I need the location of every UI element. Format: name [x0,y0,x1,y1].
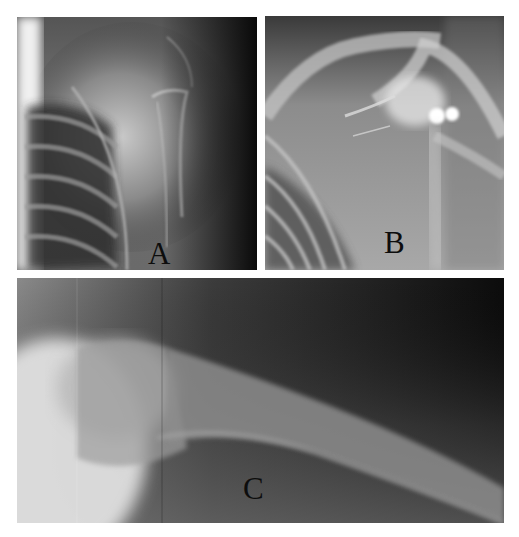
xray-panel-b: B [265,16,504,270]
xray-panel-c: C [17,278,504,523]
panel-label-b: B [384,227,405,258]
panel-label-c: C [243,473,264,504]
xray-panel-a: A [17,17,257,270]
xray-image-a [17,17,257,270]
panel-label-a: A [148,238,170,269]
